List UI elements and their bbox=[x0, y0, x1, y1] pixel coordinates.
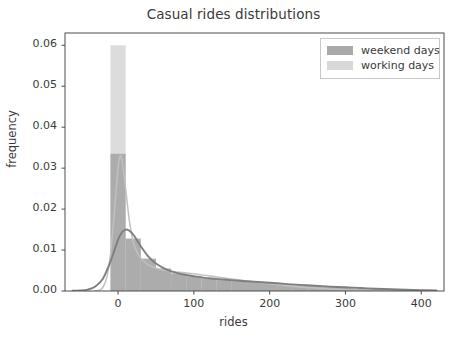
y-tick-label: 0.06 bbox=[17, 37, 57, 50]
legend-item: weekend days bbox=[327, 43, 433, 58]
hist-bar bbox=[126, 239, 141, 291]
x-tick-label: 200 bbox=[250, 297, 290, 310]
legend: weekend daysworking days bbox=[320, 38, 440, 79]
legend-item: working days bbox=[327, 58, 433, 73]
y-tick-label: 0.00 bbox=[17, 283, 57, 296]
y-tick-label: 0.03 bbox=[17, 160, 57, 173]
hist-bar bbox=[217, 280, 232, 291]
chart-figure: Casual rides distributions frequency rid… bbox=[0, 0, 467, 343]
hist-bar bbox=[171, 273, 186, 291]
x-tick-label: 0 bbox=[98, 297, 138, 310]
y-tick-label: 0.05 bbox=[17, 78, 57, 91]
legend-label: weekend days bbox=[361, 44, 440, 57]
hist-bar bbox=[232, 281, 247, 291]
hist-bar bbox=[141, 259, 156, 291]
y-tick-label: 0.04 bbox=[17, 119, 57, 132]
x-tick-label: 100 bbox=[174, 297, 214, 310]
y-tick-label: 0.01 bbox=[17, 242, 57, 255]
y-tick-label: 0.02 bbox=[17, 201, 57, 214]
x-tick-label: 400 bbox=[401, 297, 441, 310]
hist-bar bbox=[186, 276, 201, 291]
hist-bar bbox=[201, 278, 216, 291]
legend-label: working days bbox=[361, 59, 434, 72]
hist-bar bbox=[156, 268, 171, 291]
histogram-weekend-days bbox=[110, 154, 428, 291]
legend-swatch bbox=[327, 61, 353, 70]
x-tick-label: 300 bbox=[325, 297, 365, 310]
series-group bbox=[73, 45, 437, 291]
legend-swatch bbox=[327, 46, 353, 55]
